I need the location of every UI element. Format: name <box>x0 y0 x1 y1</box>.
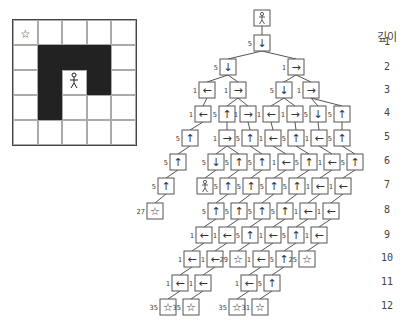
tree-edge <box>319 146 332 154</box>
tree-edge <box>190 122 203 130</box>
arrow-left-icon: ← <box>268 229 277 242</box>
action-node: ←1 <box>247 251 269 267</box>
cost-label: 1 <box>297 87 301 95</box>
arrow-up-icon: ↑ <box>291 132 300 145</box>
action-node: ↑5 <box>202 203 224 219</box>
action-node: ↑5 <box>213 106 235 122</box>
action-node: ←1 <box>235 275 257 291</box>
cost-label: 5 <box>152 183 156 191</box>
arrow-up-icon: ↑ <box>223 180 232 193</box>
arrow-right-icon: → <box>233 84 242 97</box>
action-node: →1 <box>224 82 246 98</box>
cost-label: 5 <box>176 135 180 143</box>
cost-label: 5 <box>295 159 299 167</box>
tree-edge <box>285 194 297 203</box>
tree-edge <box>274 170 286 178</box>
cost-label: 1 <box>282 64 286 72</box>
arrow-left-icon: ← <box>315 180 324 193</box>
tree-edge <box>297 170 309 178</box>
cost-label: 1 <box>317 208 321 216</box>
cost-label: 5 <box>213 111 217 119</box>
action-node: ↑5 <box>214 178 236 194</box>
tree-edge <box>239 194 251 203</box>
tree-edge <box>296 75 311 82</box>
tree-edge <box>203 98 207 106</box>
tree-edge <box>342 146 355 154</box>
cost-label: 1 <box>193 87 197 95</box>
arrow-up-icon: ↑ <box>211 205 220 218</box>
arrow-up-icon: ↑ <box>280 205 289 218</box>
goal-node: ☆31 <box>242 299 268 315</box>
tree-edge <box>271 122 273 130</box>
cost-label: 1 <box>247 256 251 264</box>
action-node: →1 <box>282 59 304 75</box>
tree-edge <box>320 170 332 178</box>
action-node: ←1 <box>294 203 316 219</box>
arrow-left-icon: ← <box>281 156 290 169</box>
cost-label: 1 <box>306 183 310 191</box>
cost-label: 5 <box>260 183 264 191</box>
tree-edge <box>272 267 284 275</box>
tree-edge <box>205 170 216 178</box>
tree-edge <box>204 219 216 227</box>
cost-label: 29 <box>220 256 228 264</box>
search-tree: ↓5↓5→1←1→1↓5→1←1↑5→1←1→1↓5↑5↑5→1↑5←1↑5←1… <box>0 0 409 326</box>
tree-edge <box>331 194 343 203</box>
arrow-left-icon: ← <box>222 229 231 242</box>
arrow-down-icon: ↓ <box>279 84 288 97</box>
cost-label: 1 <box>178 256 182 264</box>
tree-edge <box>168 291 180 299</box>
goal-node: ☆27 <box>137 203 163 219</box>
cost-label: 5 <box>270 256 274 264</box>
tree-edge <box>311 98 342 106</box>
star-icon: ☆ <box>255 301 265 314</box>
arrow-right-icon: → <box>290 108 299 121</box>
tree-edge <box>284 243 296 251</box>
cost-label: 5 <box>202 208 206 216</box>
arrow-up-icon: ↑ <box>234 156 243 169</box>
arrow-left-icon: ← <box>266 108 275 121</box>
action-node: ↑5 <box>237 178 259 194</box>
depth-label: 8 <box>372 204 402 215</box>
cost-label: 5 <box>237 183 241 191</box>
action-node: ←1 <box>257 106 279 122</box>
goal-node: ☆35 <box>173 299 199 315</box>
arrow-up-icon: ↑ <box>292 180 301 193</box>
cost-label: 31 <box>242 304 250 312</box>
tree-edge <box>228 75 238 82</box>
arrow-right-icon: → <box>222 132 231 145</box>
tree-edge <box>216 194 228 203</box>
cost-label: 5 <box>282 135 286 143</box>
tree-edge <box>216 146 227 154</box>
cost-label: 1 <box>213 135 217 143</box>
star-icon: ☆ <box>232 301 242 314</box>
action-node: ←1 <box>305 130 327 146</box>
depth-label: 6 <box>372 155 402 166</box>
tree-edge <box>295 122 296 130</box>
cost-label: 5 <box>270 87 274 95</box>
depth-label: 7 <box>372 179 402 190</box>
arrow-left-icon: ← <box>314 229 323 242</box>
arrow-up-icon: ↑ <box>350 156 359 169</box>
cost-label: 5 <box>236 232 240 240</box>
cost-label: 1 <box>259 232 263 240</box>
action-node: ↑5 <box>248 154 270 170</box>
tree-edge <box>296 219 308 227</box>
cost-label: 5 <box>214 64 218 72</box>
tree-edge <box>237 291 249 299</box>
arrow-left-icon: ← <box>268 132 277 145</box>
depth-label: 12 <box>372 300 402 311</box>
tree-edge <box>250 219 262 227</box>
tree-edge <box>238 98 248 106</box>
cost-label: 5 <box>248 40 252 48</box>
action-node: ←1 <box>166 275 188 291</box>
cost-label: 5 <box>202 159 206 167</box>
action-node: ←1 <box>190 227 212 243</box>
action-node: ↓5 <box>270 82 292 98</box>
action-node: ↑5 <box>271 203 293 219</box>
arrow-up-icon: ↑ <box>267 277 276 290</box>
action-node: ←1 <box>259 227 281 243</box>
tree-edge <box>249 267 261 275</box>
action-node: ↑5 <box>283 178 305 194</box>
tree-edge <box>273 219 285 227</box>
